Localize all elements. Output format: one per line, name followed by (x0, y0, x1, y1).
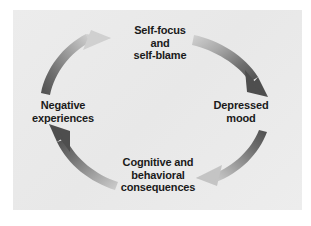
node-label-cognitive-behavioral: Cognitive and behavioral consequences (100, 156, 216, 194)
cycle-diagram-figure: Self-focus and self-blame Depressed mood… (0, 0, 311, 226)
node-label-depressed-mood: Depressed mood (198, 99, 284, 124)
node-label-self-focus: Self-focus and self-blame (105, 24, 215, 62)
node-label-negative-experiences: Negative experiences (18, 99, 108, 124)
arrow-top-left (41, 30, 111, 95)
